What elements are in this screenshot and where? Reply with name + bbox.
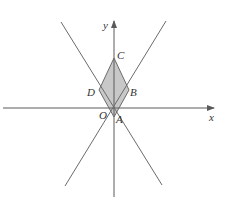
line-CB [61, 22, 162, 185]
y-axis-label: y [102, 19, 108, 31]
x-axis-label: x [208, 111, 214, 123]
point-label-A: A [115, 113, 123, 125]
point-label-D: D [86, 86, 95, 98]
coordinate-diagram: y x C D B O A [0, 0, 231, 203]
line-CD [65, 21, 166, 186]
point-label-C: C [117, 49, 125, 61]
point-label-B: B [130, 86, 137, 98]
origin-label: O [99, 109, 107, 121]
